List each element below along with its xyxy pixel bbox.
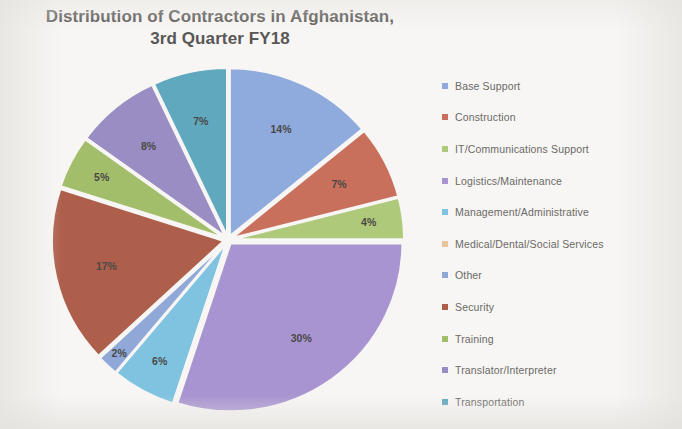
pie-slice-label: 30%: [291, 332, 313, 344]
page-title: Distribution of Contractors in Afghanist…: [0, 6, 440, 51]
legend-color-swatch-icon: [442, 304, 448, 310]
legend-color-swatch-icon: [442, 272, 448, 278]
legend-item-label: Construction: [455, 111, 516, 123]
chart-legend: Base SupportConstructionIT/Communication…: [440, 70, 678, 418]
pie-chart-svg: 14%7%4%30%6%2%17%5%8%7%: [48, 64, 408, 416]
legend-item-label: Medical/Dental/Social Services: [455, 238, 604, 250]
legend-item-label: Management/Administrative: [455, 206, 589, 218]
legend-color-swatch-icon: [442, 146, 448, 152]
pie-slice-label: 2%: [112, 347, 128, 359]
legend-item[interactable]: Management/Administrative: [440, 196, 678, 228]
pie-slice-label: 7%: [331, 178, 347, 190]
pie-slice-label: 5%: [94, 171, 110, 183]
legend-color-swatch-icon: [442, 399, 448, 405]
legend-item[interactable]: Other: [440, 260, 678, 292]
legend-item-label: Transportation: [455, 396, 524, 408]
pie-slice-label: 6%: [152, 355, 168, 367]
legend-item-label: Security: [455, 301, 494, 313]
legend-item-label: Training: [455, 333, 494, 345]
legend-color-swatch-icon: [442, 367, 448, 373]
legend-color-swatch-icon: [442, 336, 448, 342]
legend-item-label: Other: [455, 269, 482, 281]
legend-item-label: IT/Communications Support: [455, 143, 589, 155]
legend-item-label: Logistics/Maintenance: [455, 175, 562, 187]
pie-slice-label: 8%: [141, 140, 157, 152]
legend-item[interactable]: Construction: [440, 102, 678, 134]
legend-item[interactable]: Translator/Interpreter: [440, 354, 678, 386]
legend-item-label: Translator/Interpreter: [455, 364, 557, 376]
legend-item[interactable]: Medical/Dental/Social Services: [440, 228, 678, 260]
pie-slice-label: 17%: [96, 260, 118, 272]
pie-slice-label: 14%: [271, 123, 293, 135]
legend-item-label: Base Support: [455, 80, 520, 92]
legend-item[interactable]: Logistics/Maintenance: [440, 165, 678, 197]
legend-item[interactable]: Base Support: [440, 70, 678, 102]
chart-page: Distribution of Contractors in Afghanist…: [0, 0, 682, 429]
legend-item[interactable]: IT/Communications Support: [440, 133, 678, 165]
legend-item[interactable]: Training: [440, 323, 678, 355]
chart-title-line-1: Distribution of Contractors in Afghanist…: [0, 6, 440, 28]
pie-slice-label: 7%: [193, 115, 209, 127]
legend-color-swatch-icon: [442, 114, 448, 120]
pie-slice-label: 4%: [361, 216, 377, 228]
pie-slice-group: [52, 68, 404, 411]
chart-title-line-2: 3rd Quarter FY18: [0, 28, 440, 50]
legend-color-swatch-icon: [442, 241, 448, 247]
legend-item[interactable]: Transportation: [440, 386, 678, 418]
legend-item[interactable]: Security: [440, 291, 678, 323]
legend-color-swatch-icon: [442, 83, 448, 89]
legend-color-swatch-icon: [442, 178, 448, 184]
legend-color-swatch-icon: [442, 209, 448, 215]
pie-chart: 14%7%4%30%6%2%17%5%8%7%: [48, 64, 408, 416]
